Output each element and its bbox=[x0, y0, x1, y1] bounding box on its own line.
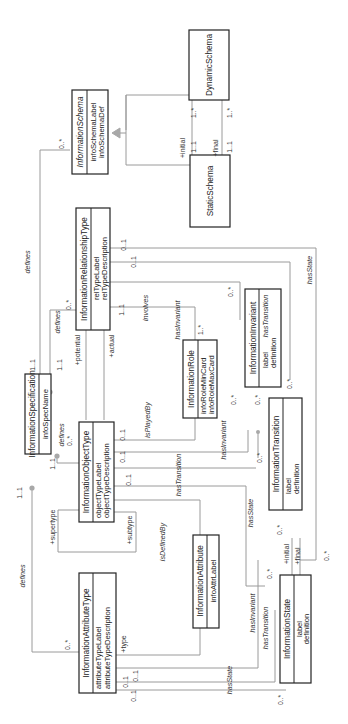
class-attribute: definition bbox=[269, 338, 278, 368]
class-name: StaticSchema bbox=[206, 165, 215, 216]
mult: 0..1 bbox=[130, 256, 137, 268]
label-is-defined-by: isDefinedBy bbox=[158, 522, 167, 561]
class-name: InformationState bbox=[283, 599, 292, 660]
mult: 1..1 bbox=[190, 141, 197, 153]
class-attribute: infoSchemaDef bbox=[97, 105, 106, 158]
mult: 0..* bbox=[277, 695, 284, 706]
mult: 1..1 bbox=[16, 487, 23, 499]
class-name: InformationRelationshipType bbox=[80, 217, 89, 321]
class-information-attribute-type[interactable]: InformationAttributeType attributeTypeLa… bbox=[79, 573, 116, 693]
mult: 1..* bbox=[226, 108, 233, 119]
mult: 1..1 bbox=[118, 304, 125, 316]
mult: 0..1 bbox=[122, 676, 129, 688]
label-has-invariant-attr: hasInvariant bbox=[248, 592, 257, 632]
label-has-invariant-rel: hasInvariant bbox=[173, 299, 182, 339]
label-defines-schema: defines bbox=[23, 250, 32, 274]
class-attribute: definition bbox=[292, 464, 301, 494]
class-information-specification[interactable]: InformationSpecification infoSpecName bbox=[25, 370, 51, 458]
mult: 1..1 bbox=[49, 458, 56, 470]
composition-dot-3 bbox=[54, 453, 59, 458]
has-invariant-link-attr bbox=[116, 560, 258, 668]
mult: 1..1 bbox=[29, 359, 36, 371]
label-defines-objtype: defines bbox=[57, 423, 66, 447]
has-state-link-obj bbox=[110, 486, 265, 586]
role-type: +type bbox=[120, 635, 128, 652]
mult: 0..1 bbox=[119, 451, 126, 463]
mult: 0..1 bbox=[132, 670, 139, 682]
label-has-state-attr: hasState bbox=[225, 666, 234, 694]
label-defines-reltype: defines bbox=[53, 310, 62, 334]
mult: 0..* bbox=[230, 395, 237, 406]
class-name: InformationSpecification bbox=[28, 370, 37, 458]
generalization-line-schema-2 bbox=[126, 95, 190, 130]
composition-dot-4 bbox=[29, 485, 34, 490]
class-attribute: infoAttrLabel bbox=[209, 559, 218, 602]
mult: 1..* bbox=[197, 325, 204, 336]
class-information-attribute[interactable]: InformationAttribute infoAttrLabel bbox=[193, 535, 219, 628]
label-defines-attrtype: defines bbox=[18, 564, 27, 588]
label-has-state-rel: hasState bbox=[305, 256, 314, 284]
mult: 0..* bbox=[286, 379, 293, 390]
defines-link-schema bbox=[40, 150, 70, 392]
mult: 1..1 bbox=[226, 141, 233, 153]
mult: 0..* bbox=[64, 640, 71, 651]
label-involves: involves bbox=[141, 295, 150, 321]
class-attribute: attributeTypeLabel bbox=[94, 626, 103, 689]
defines-link-objtype bbox=[57, 456, 79, 463]
class-name: InformationObjectType bbox=[82, 430, 91, 513]
class-name: InformationSchema bbox=[76, 96, 85, 167]
mult: 1..1 bbox=[56, 359, 63, 371]
mult: 0..* bbox=[66, 436, 73, 447]
class-information-relationship-type[interactable]: InformationRelationshipType relTypeLabel… bbox=[76, 208, 110, 330]
role-potential: +potential bbox=[74, 334, 82, 365]
mult: 0..1 bbox=[125, 474, 132, 486]
label-has-transition-rel: hasTransition bbox=[261, 295, 270, 338]
role-actual: +actual bbox=[108, 334, 115, 357]
class-attribute: definition bbox=[302, 614, 311, 644]
class-static-schema[interactable]: StaticSchema bbox=[190, 155, 230, 227]
role-initial-schema: +initial bbox=[179, 138, 186, 158]
class-attribute: infoRoleMaxCard bbox=[207, 355, 216, 414]
class-attribute: infoSpecName bbox=[41, 389, 50, 439]
label-has-transition-attr: hasTransition bbox=[261, 607, 270, 650]
class-attribute: relTypeDescription bbox=[100, 237, 109, 300]
mult: 0..* bbox=[254, 395, 261, 406]
role-subtype: +subtype bbox=[126, 516, 134, 545]
connectors bbox=[29, 95, 316, 690]
class-name: InformationTransition bbox=[272, 415, 281, 492]
class-attribute: attributeTypeDescription bbox=[103, 607, 112, 689]
label-is-played-by: isPlayedBy bbox=[143, 402, 152, 438]
type-link bbox=[116, 628, 200, 655]
class-attribute: objectTypeDescription bbox=[102, 443, 111, 518]
composition-dot-5 bbox=[256, 430, 260, 434]
mult: 0..1 bbox=[119, 429, 126, 441]
role-final-state: +final bbox=[294, 547, 301, 564]
role-initial-state: +initial bbox=[283, 544, 290, 564]
mult: 0..* bbox=[58, 139, 65, 150]
mult: 0..* bbox=[276, 525, 283, 536]
uml-class-diagram: DynamicSchema StaticSchema InformationSc… bbox=[0, 0, 348, 724]
mult: 0..1 bbox=[120, 239, 127, 251]
mult: 0..* bbox=[323, 551, 330, 562]
class-information-role[interactable]: InformationRole infoRoleMinCard infoRole… bbox=[183, 340, 217, 418]
class-information-transition[interactable]: InformationTransition label definition bbox=[269, 398, 302, 510]
class-name: InformationAttributeType bbox=[82, 588, 91, 678]
class-name: InformationInvariant bbox=[249, 301, 258, 374]
mult: 0..* bbox=[227, 287, 234, 298]
class-information-schema[interactable]: InformationSchema infoSchemaLabel infoSc… bbox=[72, 90, 108, 174]
class-information-object-type[interactable]: InformationObjectType objectTypeLabel ob… bbox=[79, 422, 114, 522]
mult: 0..1 bbox=[130, 690, 137, 702]
role-supertype: +supertype bbox=[49, 509, 57, 544]
label-has-state-obj: hasState bbox=[246, 499, 255, 527]
class-name: InformationRole bbox=[187, 350, 196, 408]
class-dynamic-schema[interactable]: DynamicSchema bbox=[189, 30, 229, 100]
class-information-state[interactable]: InformationState label definition bbox=[280, 575, 311, 683]
label-has-invariant-obj: hasInvariant bbox=[219, 419, 228, 459]
mult: 0..* bbox=[266, 569, 273, 580]
class-name: InformationAttribute bbox=[196, 545, 205, 617]
mult: 1..* bbox=[190, 108, 197, 119]
role-final-schema: +final bbox=[212, 139, 219, 156]
label-has-transition-obj: hasTransition bbox=[174, 454, 183, 497]
generalization-arrow-icon bbox=[112, 128, 120, 138]
mult: 0..* bbox=[65, 300, 72, 311]
